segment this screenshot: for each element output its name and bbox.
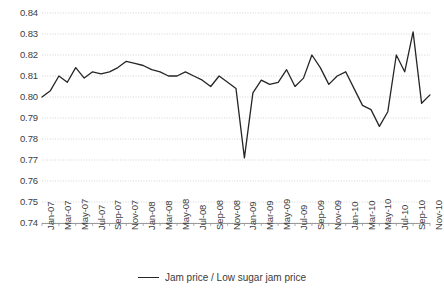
x-tick-label: Jul-07 — [97, 205, 107, 230]
x-tick-label: Jul-10 — [400, 205, 410, 230]
x-tick-label: Jan-10 — [350, 202, 360, 230]
legend-label: Jam price / Low sugar jam price — [165, 272, 306, 283]
x-tick-label: Jul-08 — [198, 205, 208, 230]
x-tick-label: Sep-10 — [417, 200, 427, 230]
y-tick-label: 0.79 — [4, 113, 38, 123]
y-tick-label: 0.78 — [4, 134, 38, 144]
y-tick-label: 0.82 — [4, 50, 38, 60]
y-tick-label: 0.75 — [4, 197, 38, 207]
x-tick-label: Sep-07 — [113, 200, 123, 230]
chart-container: 0.840.830.820.810.800.790.780.770.760.75… — [0, 0, 444, 297]
y-axis-labels: 0.840.830.820.810.800.790.780.770.760.75… — [0, 0, 38, 240]
x-tick-label: Nov-07 — [130, 200, 140, 230]
x-tick-label: Jan-08 — [147, 202, 157, 230]
legend-entry: Jam price / Low sugar jam price — [138, 272, 306, 283]
y-tick-label: 0.77 — [4, 155, 38, 165]
x-tick-label: May-09 — [282, 199, 292, 230]
x-tick-label: Sep-09 — [316, 200, 326, 230]
legend-line-swatch — [138, 277, 159, 278]
x-tick-label: Jan-09 — [248, 202, 258, 230]
x-tick-label: Jul-09 — [299, 205, 309, 230]
x-tick-label: May-10 — [383, 199, 393, 230]
x-tick-label: Jan-07 — [46, 202, 56, 230]
x-tick-label: Mar-07 — [63, 201, 73, 231]
x-tick-label: May-08 — [181, 199, 191, 230]
gridlines — [42, 13, 430, 223]
x-tick-label: Nov-10 — [434, 200, 444, 230]
chart-legend: Jam price / Low sugar jam price — [0, 269, 444, 283]
y-tick-label: 0.81 — [4, 71, 38, 81]
x-tick-label: Mar-09 — [265, 201, 275, 231]
x-tick-label: Nov-08 — [232, 200, 242, 230]
y-tick-label: 0.76 — [4, 176, 38, 186]
x-tick-label: Nov-09 — [333, 200, 343, 230]
x-tick-label: May-07 — [80, 199, 90, 230]
x-tick-label: Mar-08 — [164, 201, 174, 231]
y-tick-label: 0.83 — [4, 29, 38, 39]
x-tick-label: Sep-08 — [215, 200, 225, 230]
x-tick-label: Mar-10 — [367, 201, 377, 231]
y-tick-label: 0.80 — [4, 92, 38, 102]
y-tick-label: 0.84 — [4, 8, 38, 18]
